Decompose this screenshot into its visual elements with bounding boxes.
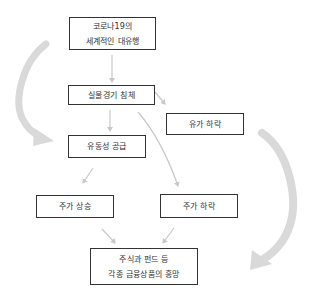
arrow-recession-to-oil <box>155 92 165 104</box>
node-text-line: 실물경기 침체 <box>88 88 135 103</box>
arrow-liquidity-to-stock-up <box>83 168 93 183</box>
node-text-line: 코로나19의 <box>93 19 133 34</box>
arrow-stock-up-to-popularity <box>102 229 115 243</box>
node-oil-price-drop: 유가 하락 <box>166 113 244 135</box>
big-curved-arrow-left <box>19 44 54 146</box>
node-covid-pandemic: 코로나19의 세계적인 대유행 <box>69 17 156 50</box>
node-recession: 실물경기 침체 <box>68 85 155 105</box>
flowchart-canvas: 코로나19의 세계적인 대유행 실물경기 침체 유가 하락 유동성 공급 주가 … <box>0 0 310 307</box>
node-stock-fall: 주가 하락 <box>160 194 238 218</box>
node-text-line: 주가 하락 <box>183 199 215 214</box>
node-stock-rise: 주가 상승 <box>36 195 114 218</box>
node-text-line: 세계적인 대유행 <box>86 34 140 49</box>
node-text-line: 주가 상승 <box>59 199 91 214</box>
node-text-line: 유동성 공급 <box>87 139 126 154</box>
node-financial-products: 주식과 펀드 등 각종 금융상품의 흥망 <box>90 248 198 285</box>
node-text-line: 유가 하락 <box>189 117 221 132</box>
big-curved-arrow-right <box>250 133 293 270</box>
node-text-line: 주식과 펀드 등 <box>119 252 169 267</box>
node-liquidity-supply: 유동성 공급 <box>68 135 146 158</box>
node-text-line: 각종 금융상품의 흥망 <box>108 267 179 282</box>
arrow-stock-down-to-popularity <box>163 228 174 243</box>
